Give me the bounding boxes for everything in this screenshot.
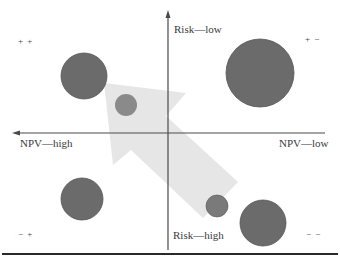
x-axis-arrowhead-icon xyxy=(12,131,20,136)
bottom-rule-divider xyxy=(2,253,338,255)
bubble-bottom-right-small xyxy=(206,195,228,217)
y-axis-arrowhead-icon xyxy=(166,10,171,18)
quadrant-top-left-label: + + xyxy=(18,37,33,46)
x-axis-left-label: NPV—high xyxy=(20,138,73,149)
quadrant-bottom-left-label: − + xyxy=(18,230,33,239)
bubble-bottom-left xyxy=(61,178,103,220)
bubble-bottom-right-large xyxy=(240,200,286,246)
quadrant-top-right-label: + − xyxy=(305,35,320,44)
diagram-svg xyxy=(0,0,340,263)
quadrant-diagram: Risk—low Risk—high NPV—high NPV—low + + … xyxy=(0,0,340,263)
bubble-top-left-small xyxy=(115,94,137,116)
quadrant-bottom-right-label: − − xyxy=(306,230,321,239)
y-axis-top-label: Risk—low xyxy=(174,24,222,35)
bubble-top-left-large xyxy=(61,53,107,99)
y-axis-bottom-label: Risk—high xyxy=(173,230,224,241)
bubble-top-right-large xyxy=(226,39,294,107)
x-axis-right-label: NPV—low xyxy=(279,138,329,149)
